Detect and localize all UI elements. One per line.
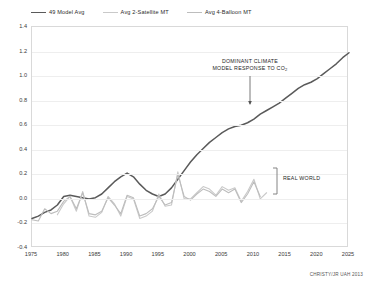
annotation-model-subscript: 2 bbox=[285, 67, 287, 72]
annotation-model-line2: MODEL RESPONSE TO CO bbox=[212, 65, 285, 71]
annotation-real-world: REAL WORLD bbox=[283, 175, 320, 181]
x-tick-label: 1975 bbox=[25, 251, 37, 257]
annotation-model-response: DOMINANT CLIMATE MODEL RESPONSE TO CO2 bbox=[192, 58, 308, 72]
x-tick-label: 2000 bbox=[183, 251, 195, 257]
annotation-model-line1: DOMINANT CLIMATE bbox=[222, 58, 278, 64]
x-tick-label: 1980 bbox=[56, 251, 68, 257]
x-tick-label: 1990 bbox=[120, 251, 132, 257]
x-axis-labels: 1975198019851990199520002005201020152020… bbox=[0, 0, 371, 285]
x-tick-label: 1995 bbox=[152, 251, 164, 257]
climate-chart: 49 Model Avg Avg 2-Satellite MT Avg 4-Ba… bbox=[0, 0, 371, 285]
x-tick-label: 1985 bbox=[88, 251, 100, 257]
x-tick-label: 2005 bbox=[215, 251, 227, 257]
chart-credit: CHRISTY/JR UAH 2013 bbox=[310, 272, 363, 277]
x-tick-label: 2015 bbox=[278, 251, 290, 257]
x-tick-label: 2020 bbox=[310, 251, 322, 257]
x-tick-label: 2010 bbox=[247, 251, 259, 257]
x-tick-label: 2025 bbox=[342, 251, 354, 257]
